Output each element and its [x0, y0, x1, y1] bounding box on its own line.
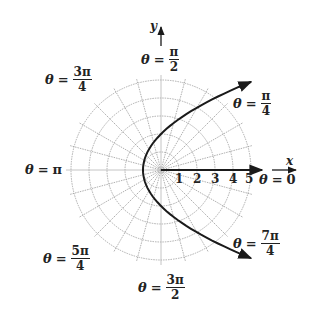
radial-tick-1: 1 [175, 172, 183, 186]
radial-tick-5: 5 [245, 172, 253, 186]
angle-label-7pi-4: θ = 7π4 [233, 230, 280, 257]
y-axis-label: y [150, 19, 157, 33]
curve-arrow-top [238, 82, 251, 87]
x-axis-label: x [286, 154, 293, 168]
angle-label-3pi-2: θ = 3π2 [138, 274, 185, 301]
angle-label-3pi-4: θ = 3π4 [45, 66, 92, 93]
angle-label-pi-2: θ = π2 [141, 46, 179, 73]
radial-tick-3: 3 [211, 172, 219, 186]
angle-label-0: θ = 0 [259, 172, 296, 187]
radial-tick-4: 4 [229, 172, 237, 186]
angle-label-pi: θ = π [25, 162, 62, 177]
angle-label-pi-4: θ = π4 [233, 90, 271, 117]
radial-tick-2: 2 [193, 172, 201, 186]
angle-label-5pi-4: θ = 5π4 [43, 245, 90, 272]
